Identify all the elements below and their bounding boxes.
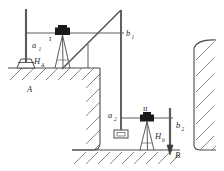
ground-hatching-cliff xyxy=(196,42,216,154)
suspended-inclined-tape xyxy=(62,10,121,69)
label-a1-subscript: 1 xyxy=(39,46,42,52)
level-instrument-II xyxy=(140,112,154,122)
ground-hatching-upper xyxy=(10,68,106,80)
label-instrument-1: I xyxy=(49,35,52,43)
label-point-B: B xyxy=(175,150,180,160)
label-point-A: A xyxy=(26,84,33,94)
right-cliff-wall xyxy=(194,40,216,150)
label-a2: a xyxy=(108,110,112,120)
label-b2-subscript: 2 xyxy=(182,126,185,132)
level-instrument-I xyxy=(55,25,70,35)
excavation-outline xyxy=(72,68,100,150)
label-Hb: H xyxy=(154,131,162,141)
label-a2-subscript: 2 xyxy=(114,116,117,122)
label-b1-subscript: 1 xyxy=(132,34,135,40)
label-instrument-2: II xyxy=(143,105,148,113)
label-b1: b xyxy=(126,28,130,38)
label-a1: a xyxy=(32,40,36,50)
tripod-two xyxy=(140,122,154,151)
diagram-canvas: a 1 H A A I b 1 a 2 II H b b 2 B xyxy=(0,0,224,171)
label-HA-subscript: A xyxy=(40,62,45,68)
foresight-staff-b2 xyxy=(167,108,173,155)
levelling-diagram: a 1 H A A I b 1 a 2 II H b b 2 B xyxy=(0,0,224,171)
staff-foot-plate xyxy=(114,130,128,138)
label-HA: H xyxy=(33,56,41,66)
label-Hb-subscript: b xyxy=(162,137,165,143)
label-b2: b xyxy=(176,120,180,130)
ground-hatching-pit-floor xyxy=(74,152,182,164)
